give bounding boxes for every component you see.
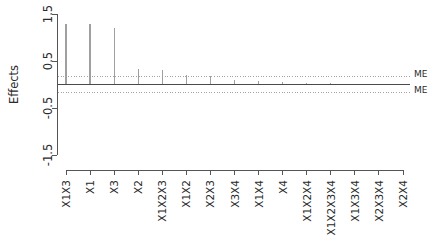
x-category-label: X4	[277, 180, 289, 194]
me-annotation-label: ME	[414, 69, 428, 79]
x-category-label: X3	[108, 180, 120, 194]
x-category-label: X1X3	[60, 180, 72, 208]
y-axis-title: Effects	[7, 65, 21, 104]
effects-pareto-plot: 1.50.5-0.5-1.5 Effects X1X3X1X3X2X1X2X3X…	[0, 0, 433, 239]
y-tick-label: -0.5	[41, 97, 55, 119]
y-tick-label: 1.5	[41, 5, 55, 23]
x-category-label: X1X4	[253, 180, 265, 208]
x-category-label: X2X3	[204, 180, 216, 208]
y-axis-title-text: Effects	[7, 65, 21, 104]
x-category-label: X2X4	[397, 180, 409, 208]
category-labels: X1X3X1X3X2X1X2X3X1X2X2X3X3X4X1X4X4X1X2X4…	[60, 180, 409, 236]
x-axis	[66, 170, 403, 175]
x-category-label: X1X2X4	[301, 180, 313, 222]
me-annotation-label: ME	[414, 85, 428, 95]
x-category-label: X1X2	[180, 180, 192, 208]
effect-spikes	[66, 24, 403, 84]
x-category-label: X1X2X3X4	[325, 180, 337, 236]
y-tick-label: -1.5	[41, 144, 55, 166]
x-category-label: X3X4	[229, 180, 241, 208]
x-category-label: X1X3X4	[349, 180, 361, 222]
y-tick-label: 0.5	[41, 52, 55, 70]
x-category-label: X1	[84, 180, 96, 194]
x-category-label: X1X2X3	[156, 180, 168, 222]
me-labels: MEME	[414, 69, 428, 96]
x-category-label: X2	[132, 180, 144, 194]
y-axis: 1.50.5-0.5-1.5	[41, 5, 57, 166]
plot-canvas: 1.50.5-0.5-1.5 Effects X1X3X1X3X2X1X2X3X…	[0, 0, 433, 239]
x-category-label: X2X3X4	[373, 180, 385, 222]
